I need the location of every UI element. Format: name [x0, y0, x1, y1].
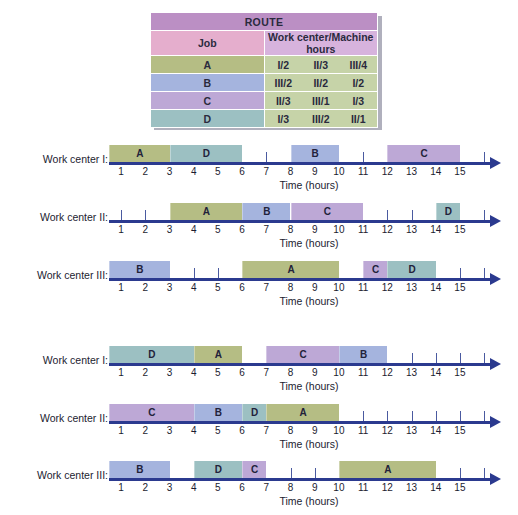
axis-tick-label: 8 — [279, 282, 303, 293]
axis-tick — [484, 152, 485, 162]
gantt-bar-job-c[interactable]: C — [266, 346, 339, 363]
gantt-bar-job-d[interactable]: D — [436, 203, 460, 220]
axis-tick-label: 6 — [230, 482, 254, 493]
gantt-bar-job-c[interactable]: C — [387, 145, 460, 162]
axis-tick — [460, 353, 461, 363]
gantt-bar-job-b[interactable]: B — [291, 145, 339, 162]
axis-tick — [460, 468, 461, 478]
route-table-row: AI/2II/3III/4 — [151, 56, 378, 74]
axis-tick-label: 13 — [400, 282, 424, 293]
axis-tick-label: 6 — [230, 425, 254, 436]
gantt-bar-job-d[interactable]: D — [109, 346, 194, 363]
axis-arrow-icon — [490, 215, 501, 227]
work-center-label: Work center I: — [22, 354, 108, 366]
axis-tick-label: 4 — [182, 166, 206, 177]
axis-tick-label: 2 — [133, 282, 157, 293]
axis-tick-label: 14 — [424, 425, 448, 436]
axis-tick-label: 5 — [206, 367, 230, 378]
axis-tick — [387, 210, 388, 220]
route-table-container: ROUTE Job Work center/Machine hours AI/2… — [150, 12, 378, 128]
axis-tick-label: 5 — [206, 482, 230, 493]
axis-tick-label: 2 — [133, 425, 157, 436]
axis-tick-label: 14 — [424, 224, 448, 235]
gantt-bar-job-c[interactable]: C — [109, 404, 194, 421]
axis-tick-label: 2 — [133, 224, 157, 235]
gantt-row: Work center I:ADBC123456789101112131415T… — [0, 136, 518, 192]
route-table-row: CII/3III/1I/3 — [151, 92, 378, 110]
route-job-cell: C — [151, 92, 265, 110]
axis-tick — [412, 210, 413, 220]
axis-arrow-icon — [490, 416, 501, 428]
axis-tick — [484, 411, 485, 421]
axis-tick-label: 12 — [375, 425, 399, 436]
axis-tick — [484, 210, 485, 220]
axis-line — [109, 363, 492, 366]
axis-tick-label: 1 — [109, 425, 133, 436]
axis-tick-label: 2 — [133, 166, 157, 177]
time-axis: ADBC123456789101112131415Time (hours) — [109, 136, 509, 192]
route-table-row: DI/3III/2II/1 — [151, 110, 378, 128]
gantt-bar-job-c[interactable]: C — [242, 461, 266, 478]
axis-tick-label: 15 — [448, 224, 472, 235]
gantt-bar-job-a[interactable]: A — [170, 203, 243, 220]
gantt-bar-job-a[interactable]: A — [266, 404, 339, 421]
axis-tick-label: 6 — [230, 282, 254, 293]
gantt-bar-job-b[interactable]: B — [109, 461, 170, 478]
gantt-bar-job-b[interactable]: B — [339, 346, 387, 363]
axis-tick-label: 4 — [182, 367, 206, 378]
axis-tick-label: 4 — [182, 482, 206, 493]
axis-caption: Time (hours) — [109, 295, 509, 307]
axis-tick-label: 8 — [279, 367, 303, 378]
route-job-cell: B — [151, 74, 265, 92]
route-table-body: AI/2II/3III/4BIII/2II/2I/2CII/3III/1I/3D… — [151, 56, 378, 128]
gantt-bar-job-a[interactable]: A — [109, 145, 170, 162]
axis-tick — [194, 268, 195, 278]
axis-arrow-icon — [490, 273, 501, 285]
axis-tick-label: 13 — [400, 367, 424, 378]
axis-tick — [436, 353, 437, 363]
gantt-bar-job-d[interactable]: D — [242, 404, 266, 421]
gantt-bar-job-a[interactable]: A — [242, 261, 339, 278]
gantt-row: Work center III:BDCA12345678910111213141… — [0, 452, 518, 508]
axis-tick-label: 9 — [303, 425, 327, 436]
gantt-bar-job-c[interactable]: C — [363, 261, 387, 278]
axis-tick — [460, 411, 461, 421]
axis-caption: Time (hours) — [109, 495, 509, 507]
axis-tick — [145, 210, 146, 220]
route-table: ROUTE Job Work center/Machine hours AI/2… — [150, 12, 378, 128]
axis-tick-label: 12 — [375, 482, 399, 493]
gantt-bar-job-c[interactable]: C — [291, 203, 364, 220]
gantt-bar-job-b[interactable]: B — [194, 404, 242, 421]
gantt-bar-job-d[interactable]: D — [387, 261, 435, 278]
axis-tick-label: 10 — [327, 224, 351, 235]
route-header-row: Job Work center/Machine hours — [151, 31, 378, 56]
work-center-label: Work center II: — [22, 412, 108, 424]
axis-line — [109, 278, 492, 281]
axis-tick — [484, 468, 485, 478]
axis-tick-label: 8 — [279, 425, 303, 436]
axis-tick-label: 12 — [375, 224, 399, 235]
axis-tick-label: 8 — [279, 224, 303, 235]
axis-tick — [363, 152, 364, 162]
axis-tick-label: 14 — [424, 166, 448, 177]
gantt-bar-job-b[interactable]: B — [109, 261, 170, 278]
axis-tick-label: 5 — [206, 425, 230, 436]
route-title-row: ROUTE — [151, 13, 378, 31]
axis-tick-label: 9 — [303, 282, 327, 293]
axis-tick-label: 10 — [327, 482, 351, 493]
axis-tick-label: 6 — [230, 367, 254, 378]
gantt-bar-job-b[interactable]: B — [242, 203, 290, 220]
axis-tick-label: 13 — [400, 425, 424, 436]
axis-tick — [484, 353, 485, 363]
route-steps-cell: II/3III/1I/3 — [264, 92, 378, 110]
axis-tick-label: 4 — [182, 282, 206, 293]
axis-tick-label: 10 — [327, 425, 351, 436]
axis-tick — [218, 268, 219, 278]
axis-tick-label: 7 — [254, 224, 278, 235]
axis-tick-label: 7 — [254, 367, 278, 378]
gantt-bar-job-d[interactable]: D — [194, 461, 242, 478]
route-step: I/3 — [265, 113, 303, 125]
gantt-bar-job-d[interactable]: D — [170, 145, 243, 162]
gantt-bar-job-a[interactable]: A — [339, 461, 436, 478]
gantt-bar-job-a[interactable]: A — [194, 346, 242, 363]
